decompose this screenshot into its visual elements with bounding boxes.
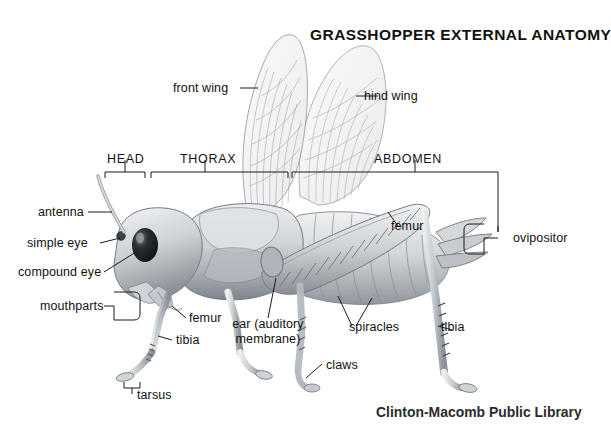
compound-eye-shape bbox=[132, 228, 158, 262]
label-compound-eye: compound eye bbox=[18, 265, 101, 280]
label-spiracles: spiracles bbox=[349, 320, 399, 335]
page-title: GRASSHOPPER EXTERNAL ANATOMY bbox=[310, 26, 611, 44]
section-label-abdomen: ABDOMEN bbox=[374, 152, 442, 166]
label-ear: ear (auditory membrane) bbox=[231, 317, 305, 347]
library-credit: Clinton-Macomb Public Library bbox=[376, 404, 582, 420]
label-claws: claws bbox=[326, 358, 358, 373]
section-label-thorax: THORAX bbox=[180, 152, 236, 166]
label-fore-tibia: tibia bbox=[176, 333, 199, 348]
label-hind-wing: hind wing bbox=[364, 89, 418, 104]
label-antenna: antenna bbox=[38, 205, 84, 220]
label-front-wing: front wing bbox=[173, 81, 228, 96]
label-ovipositor: ovipositor bbox=[513, 231, 568, 246]
section-label-head: HEAD bbox=[107, 152, 145, 166]
label-tarsus: tarsus bbox=[137, 388, 172, 403]
wings bbox=[243, 35, 386, 213]
label-hind-tibia: tibia bbox=[441, 320, 464, 335]
front-wing-shape bbox=[243, 35, 308, 213]
hind-wing-shape bbox=[299, 46, 386, 205]
label-hind-femur: femur bbox=[391, 219, 423, 234]
label-mouthparts: mouthparts bbox=[40, 299, 104, 314]
label-fore-femur: femur bbox=[189, 311, 221, 326]
label-simple-eye: simple eye bbox=[27, 236, 88, 251]
